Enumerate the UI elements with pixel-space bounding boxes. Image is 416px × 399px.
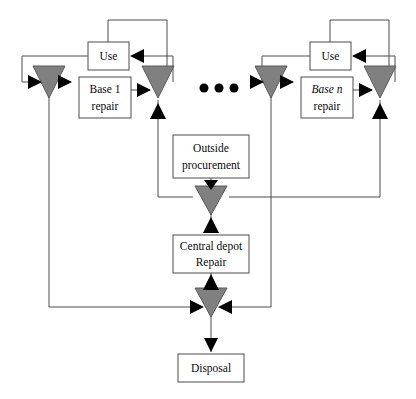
stock-triangle-base-1-out	[142, 66, 174, 98]
ellipsis-dot-1	[200, 84, 209, 93]
base-1-label-line2: repair	[92, 100, 119, 113]
node-central-depot-repair[interactable]: Central depot Repair	[173, 235, 249, 273]
arrowhead-basen-stock-in-to-box	[280, 75, 294, 89]
arrowhead-up-into-basen-stock-out	[372, 103, 388, 119]
base-n-label-line1: Base n	[312, 83, 343, 95]
node-base-1-repair[interactable]: Base 1 repair	[79, 77, 131, 118]
arrowhead-up-into-base1-stock-out	[150, 103, 166, 119]
node-use-1[interactable]: Use	[88, 42, 129, 70]
arrowhead-into-disposal	[204, 338, 218, 352]
arrowhead-up-into-central-from-stock-in	[203, 217, 219, 233]
stock-triangle-depot-out	[195, 288, 227, 317]
arrowhead-right-into-depot-stock-out	[218, 300, 232, 314]
central-depot-label-line2: Repair	[196, 256, 227, 269]
stock-triangle-depot-in	[195, 186, 227, 215]
arrowhead-basen-box-to-stock-out	[359, 83, 373, 97]
node-base-n-repair[interactable]: Base n repair	[301, 77, 353, 118]
outside-procurement-label-line2: procurement	[182, 159, 241, 172]
conn-basen-to-depot-stock-out	[229, 92, 271, 307]
diagram-canvas: Use Base 1 repair Use Base n repair Outs…	[0, 0, 416, 399]
arrowhead-into-usen	[352, 49, 366, 63]
use-n-label: Use	[322, 50, 340, 62]
arrowhead-base1-box-to-stock-out	[137, 83, 151, 97]
arrowhead-central-to-depot-stock-out	[203, 274, 219, 290]
ellipsis-dot-3	[230, 84, 239, 93]
arrowhead-left-into-depot-stock-out	[190, 300, 204, 314]
arrowhead-base1-stock-in-to-box	[58, 75, 72, 89]
arrowhead-into-use1	[130, 49, 144, 63]
node-outside-procurement[interactable]: Outside procurement	[173, 135, 249, 178]
base-n-label-line2: repair	[314, 100, 341, 113]
base-1-label-line1: Base 1	[90, 83, 121, 95]
node-disposal[interactable]: Disposal	[178, 354, 244, 382]
disposal-label: Disposal	[191, 362, 231, 375]
outside-procurement-label-line1: Outside	[193, 142, 229, 154]
central-depot-label-line1: Central depot	[180, 240, 243, 253]
flow-diagram: Use Base 1 repair Use Base n repair Outs…	[0, 0, 416, 399]
node-use-n[interactable]: Use	[310, 42, 351, 70]
stock-triangle-base-n-out	[364, 66, 396, 98]
use-1-label: Use	[100, 50, 118, 62]
ellipsis-dot-2	[215, 84, 224, 93]
conn-base1-to-depot-stock-out	[49, 92, 193, 307]
